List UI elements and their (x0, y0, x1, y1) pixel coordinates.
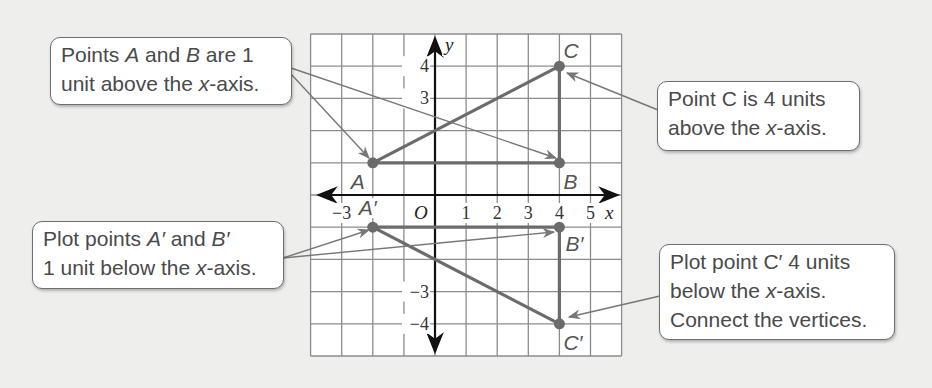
point-name: B (186, 43, 200, 66)
axis-name: x (766, 279, 777, 302)
callout-line: below the x-axis. (670, 276, 886, 305)
text: below the (670, 279, 766, 302)
callout-point-c: Point C is 4 units above the x-axis. (657, 81, 860, 151)
callout-line: unit above the x-axis. (61, 69, 283, 98)
text: are 1 (200, 43, 254, 66)
x-tick-label: 5 (586, 203, 595, 223)
axis-name: x (199, 72, 210, 95)
callout-line: Plot points A′ and B′ (43, 224, 275, 253)
callout-line: Points A and B are 1 (61, 40, 283, 69)
point-b-prime (554, 222, 565, 233)
axis-name: x (196, 256, 207, 279)
text: -axis. (777, 116, 827, 139)
callout-line: above the x-axis. (668, 113, 851, 142)
text: unit above the (61, 72, 199, 95)
point-label-a: A (349, 170, 365, 193)
text: Points (61, 43, 125, 66)
origin-label: O (414, 202, 428, 223)
x-tick-label: 4 (555, 203, 564, 223)
y-tick-label: 3 (420, 88, 429, 108)
point-name: B′ (212, 227, 230, 250)
y-tick-label: 4 (420, 56, 429, 76)
point-name: A (125, 43, 139, 66)
y-tick-label: −3 (410, 282, 429, 302)
text: 1 unit below the (43, 256, 196, 279)
x-axis-label: x (604, 202, 614, 223)
callout-points-a-b: Points A and B are 1 unit above the x-ax… (50, 37, 292, 105)
text: above the (668, 116, 766, 139)
y-axis-label: y (443, 34, 454, 55)
point-c-prime (554, 318, 565, 329)
callout-line: 1 unit below the x-axis. (43, 253, 275, 282)
axis-name: x (766, 116, 777, 139)
text: -axis. (209, 72, 259, 95)
text: -axis. (776, 279, 826, 302)
point-c (554, 61, 565, 72)
point-a-prime (367, 222, 378, 233)
point-label-b-prime: B′ (565, 232, 584, 255)
text: and (165, 227, 212, 250)
x-tick-label: 3 (524, 203, 533, 223)
point-b (554, 157, 565, 168)
text: and (139, 43, 186, 66)
x-tick-label: 1 (462, 203, 471, 223)
point-label-b: B (563, 170, 577, 193)
point-label-c: C (563, 39, 579, 62)
reflection-diagram: −31234543−3−4 x y O ABCA′B′C′ Points A a… (0, 0, 932, 388)
point-a (367, 157, 378, 168)
point-label-c-prime: C′ (563, 331, 583, 354)
callout-line: Point C is 4 units (668, 84, 851, 113)
callout-line: Plot point C′ 4 units (670, 247, 886, 276)
point-label-a-prime: A′ (357, 196, 378, 219)
text: -axis. (206, 256, 256, 279)
text: Plot points (43, 227, 147, 250)
y-tick-label: −4 (410, 314, 429, 334)
callout-point-c-prime: Plot point C′ 4 units below the x-axis. … (659, 244, 895, 340)
callout-points-a-b-prime: Plot points A′ and B′ 1 unit below the x… (32, 221, 284, 289)
x-tick-label: 2 (493, 203, 502, 223)
callout-line: Connect the vertices. (670, 305, 886, 334)
x-tick-label: −3 (332, 203, 351, 223)
point-name: A′ (147, 227, 165, 250)
